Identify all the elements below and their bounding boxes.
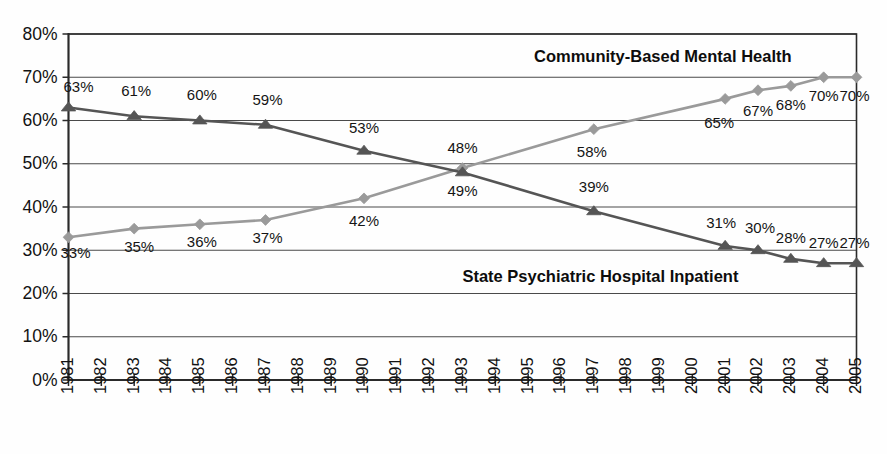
x-tick-label-1983: 1983 [124,357,142,394]
chart-container: 0%10%20%30%40%50%60%70%80% 1981198219831… [0,0,887,454]
point-value-label-2002: 67% [743,102,773,119]
series-annotation-state-hospital: State Psychiatric Hospital Inpatient [462,267,738,285]
y-tick-label-70: 70% [22,67,57,87]
x-tick-label-1999: 1999 [649,357,667,394]
point-value-label-1990: 53% [349,119,379,136]
y-tick-label-40: 40% [22,197,57,217]
point-value-label-2003: 68% [776,96,806,113]
y-tick-label-60: 60% [22,110,57,130]
point-value-label-2005: 27% [839,234,869,251]
y-tick-label-80: 80% [22,24,57,44]
x-tick-label-1984: 1984 [156,357,174,394]
x-tick-label-1994: 1994 [485,357,503,394]
point-value-label-1983: 35% [124,238,154,255]
x-tick-label-2003: 2003 [780,357,798,394]
x-tick-label-1986: 1986 [222,357,240,394]
y-tick-label-30: 30% [22,240,57,260]
y-tick-label-0: 0% [32,370,57,390]
x-tick-label-2000: 2000 [682,357,700,394]
point-value-label-2001: 65% [704,114,734,131]
point-value-label-2004: 70% [809,87,839,104]
point-value-label-2005: 70% [839,87,869,104]
x-tick-label-1985: 1985 [189,357,207,394]
point-value-label-1997: 39% [579,178,609,195]
point-value-label-2002: 30% [745,219,775,236]
x-tick-label-2004: 2004 [813,357,831,394]
line-chart: 0%10%20%30%40%50%60%70%80% 1981198219831… [0,0,887,454]
point-value-label-1985: 36% [187,233,217,250]
x-tick-label-1992: 1992 [419,357,437,394]
x-tick-label-2001: 2001 [715,357,733,394]
point-value-label-1993: 49% [447,182,477,199]
point-value-label-1990: 42% [349,212,379,229]
x-tick-label-1991: 1991 [386,357,404,394]
y-tick-label-10: 10% [22,326,57,346]
point-value-label-1993: 48% [447,139,477,156]
point-value-label-1987: 59% [252,91,282,108]
y-tick-label-20: 20% [22,283,57,303]
point-value-label-2003: 28% [776,229,806,246]
series-annotation-community-based: Community-Based Mental Health [534,47,792,65]
x-tick-label-1989: 1989 [321,357,339,394]
x-tick-label-1998: 1998 [616,357,634,394]
x-tick-label-1987: 1987 [255,357,273,394]
x-tick-label-1982: 1982 [91,357,109,394]
x-tick-label-1995: 1995 [518,357,536,394]
point-value-label-2004: 27% [809,234,839,251]
y-tick-label-50: 50% [22,153,57,173]
point-value-label-2001: 31% [706,214,736,231]
point-value-label-1983: 61% [121,82,151,99]
x-tick-label-1988: 1988 [288,357,306,394]
point-value-label-1981: 33% [60,244,90,261]
x-tick-label-1997: 1997 [583,357,601,394]
x-tick-label-1996: 1996 [550,357,568,394]
point-value-label-1987: 37% [252,229,282,246]
point-value-label-1985: 60% [187,86,217,103]
x-tick-label-2002: 2002 [747,357,765,394]
x-tick-label-2005: 2005 [846,357,864,394]
x-tick-label-1981: 1981 [58,357,76,394]
point-value-label-1997: 58% [577,143,607,160]
x-tick-label-1990: 1990 [353,357,371,394]
point-value-label-1981: 63% [63,78,93,95]
x-tick-label-1993: 1993 [452,357,470,394]
